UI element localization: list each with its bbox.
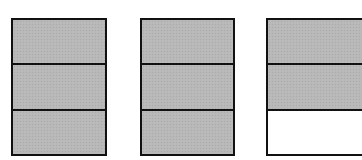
bar-2-part-2-shaded — [142, 63, 233, 108]
fraction-bar-1 — [11, 18, 107, 156]
bar-1-part-2-shaded — [13, 63, 105, 108]
bar-1-part-3-shaded — [13, 109, 105, 154]
fraction-bar-3 — [266, 18, 362, 156]
bar-2-part-3-shaded — [142, 109, 233, 154]
bar-3-part-3-empty — [268, 109, 362, 154]
bar-3-part-2-shaded — [268, 63, 362, 108]
bar-3-part-1-shaded — [268, 20, 362, 63]
fraction-bar-2 — [140, 18, 235, 156]
bar-2-part-1-shaded — [142, 20, 233, 63]
bar-1-part-1-shaded — [13, 20, 105, 63]
